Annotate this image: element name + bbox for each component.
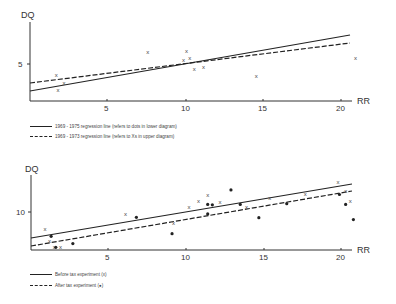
x-marker: x xyxy=(185,48,188,54)
lower-legend-dashed-label: After tax experiment (●) xyxy=(55,283,103,288)
upper-ytick-label: 5 xyxy=(18,60,23,69)
dashed-line-swatch xyxy=(30,136,52,137)
x-marker: x xyxy=(59,244,62,250)
x-marker: x xyxy=(245,204,248,210)
x-marker: x xyxy=(255,73,258,79)
dot-marker xyxy=(257,216,260,219)
lower-xlabel: RR xyxy=(357,245,370,255)
dot-marker xyxy=(206,212,209,215)
lower-legend-solid-label: Before tax experiment (x) xyxy=(55,272,107,277)
upper-legend-solid-label: 1969 - 1975 regression line (refers to d… xyxy=(55,124,177,129)
dashed-line-swatch xyxy=(30,285,52,286)
x-marker: x xyxy=(268,195,271,201)
upper-legend-solid: 1969 - 1975 regression line (refers to d… xyxy=(30,124,177,129)
x-marker: x xyxy=(202,64,205,70)
dot-marker xyxy=(71,242,74,245)
svg-text:10: 10 xyxy=(181,104,190,113)
upper-chart: DQ RR 5 5 10 15 20 xxxxxxxxxxx xyxy=(18,10,370,113)
x-marker: x xyxy=(336,179,339,185)
svg-text:15: 15 xyxy=(259,253,268,262)
dot-marker xyxy=(50,235,53,238)
dot-marker xyxy=(338,193,341,196)
solid-line-swatch xyxy=(30,126,52,127)
x-marker: x xyxy=(188,204,191,210)
x-marker: x xyxy=(193,66,196,72)
x-marker: x xyxy=(172,220,175,226)
dot-marker xyxy=(239,203,242,206)
lower-chart: DQ RR 10 5 10 15 20 xxxxxxxxxxxxxxxx xyxy=(16,164,370,262)
upper-x-markers: xxxxxxxxxxx xyxy=(55,48,357,93)
lower-markers: xxxxxxxxxxxxxxxx xyxy=(43,179,355,250)
svg-text:10: 10 xyxy=(181,253,190,262)
upper-dashed-regression-line xyxy=(30,43,350,83)
x-marker: x xyxy=(188,55,191,61)
upper-legend-dashed-label: 1969 - 1973 regression line (refers to X… xyxy=(55,134,174,139)
svg-text:5: 5 xyxy=(105,253,110,262)
dot-marker xyxy=(206,203,209,206)
upper-ylabel: DQ xyxy=(21,10,35,20)
svg-text:20: 20 xyxy=(336,253,345,262)
x-marker: x xyxy=(146,49,149,55)
dot-marker xyxy=(352,218,355,221)
x-marker: x xyxy=(48,238,51,244)
lower-dashed-regression-line xyxy=(31,191,352,246)
x-marker: x xyxy=(56,87,59,93)
upper-xlabel: RR xyxy=(357,96,370,106)
dot-marker xyxy=(344,203,347,206)
dot-marker xyxy=(229,188,232,191)
x-marker: x xyxy=(182,57,185,63)
x-marker: x xyxy=(354,55,357,61)
dot-marker xyxy=(285,202,288,205)
solid-line-swatch xyxy=(30,274,52,275)
lower-ytick-label: 10 xyxy=(16,208,25,217)
svg-text:15: 15 xyxy=(258,104,267,113)
dot-marker xyxy=(211,203,214,206)
x-marker: x xyxy=(349,198,352,204)
svg-text:20: 20 xyxy=(336,104,345,113)
dot-marker xyxy=(135,216,138,219)
x-marker: x xyxy=(206,192,209,198)
x-marker: x xyxy=(55,72,58,78)
x-marker: x xyxy=(197,198,200,204)
dot-marker xyxy=(170,232,173,235)
chart-canvas: DQ RR 5 5 10 15 20 xxxxxxxxxxx DQ RR 10 xyxy=(0,0,396,304)
x-marker: x xyxy=(124,211,127,217)
lower-legend-dashed: After tax experiment (●) xyxy=(30,283,103,288)
lower-legend-solid: Before tax experiment (x) xyxy=(30,272,107,277)
x-marker: x xyxy=(304,191,307,197)
x-marker: x xyxy=(43,226,46,232)
x-marker: x xyxy=(344,188,347,194)
upper-legend-dashed: 1969 - 1973 regression line (refers to X… xyxy=(30,134,174,139)
svg-text:5: 5 xyxy=(104,104,109,113)
lower-ylabel: DQ xyxy=(25,164,39,174)
dot-marker xyxy=(54,246,57,249)
x-marker: x xyxy=(219,199,222,205)
x-marker: x xyxy=(63,80,66,86)
